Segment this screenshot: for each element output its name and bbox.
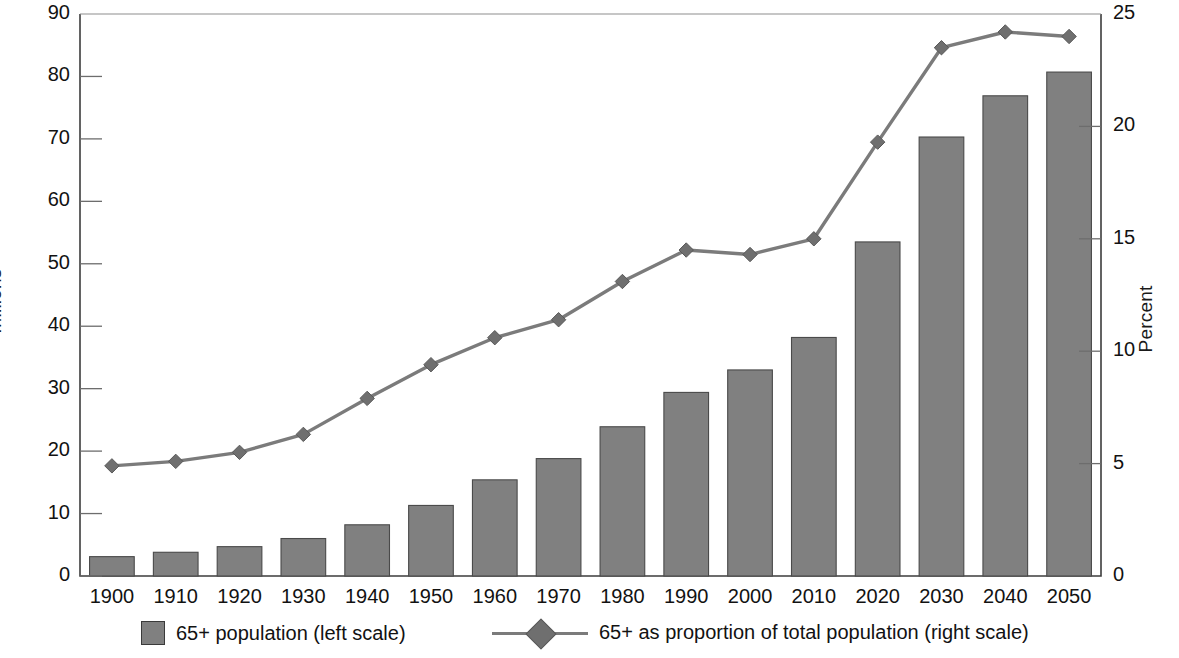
bar-1900	[90, 557, 135, 576]
bar-1980	[600, 427, 645, 576]
line-marker-2050	[1062, 29, 1076, 43]
legend-item-line: 65+ as proportion of total population (r…	[492, 621, 1029, 644]
line-marker-1900	[105, 459, 119, 473]
bar-2050	[1047, 72, 1092, 576]
line-marker-icon	[492, 623, 588, 643]
bar-1930	[281, 539, 326, 576]
chart-container: Millions Percent 0102030405060708090 051…	[0, 0, 1179, 658]
bar-1960	[472, 480, 517, 576]
line-marker-1940	[360, 391, 374, 405]
line-marker-2040	[998, 25, 1012, 39]
bar-1950	[409, 505, 454, 576]
bar-2040	[983, 96, 1028, 576]
bar-series	[90, 72, 1092, 576]
bar-2020	[855, 242, 900, 576]
line-marker-1910	[169, 454, 183, 468]
bar-2010	[792, 337, 837, 576]
bar-swatch-icon	[141, 621, 165, 645]
bar-1940	[345, 525, 390, 576]
line-marker-2000	[743, 247, 757, 261]
bar-2030	[919, 137, 964, 576]
line-marker-1920	[232, 445, 246, 459]
legend-label-bar: 65+ population (left scale)	[176, 622, 406, 645]
line-marker-1970	[551, 313, 565, 327]
plot-area	[0, 0, 1179, 658]
bar-1920	[217, 547, 262, 576]
legend-item-bar: 65+ population (left scale)	[141, 621, 406, 645]
line-marker-1950	[424, 357, 438, 371]
bar-1990	[664, 392, 709, 576]
chart-legend: 65+ population (left scale) 65+ as propo…	[0, 612, 1179, 658]
line-marker-1990	[679, 243, 693, 257]
bar-1970	[536, 459, 581, 576]
bar-2000	[728, 370, 773, 576]
line-marker-1980	[615, 274, 629, 288]
line-marker-1930	[296, 427, 310, 441]
legend-label-line: 65+ as proportion of total population (r…	[599, 621, 1029, 644]
diamond-marker-icon	[525, 618, 556, 649]
bar-1910	[153, 552, 198, 576]
line-marker-1960	[488, 331, 502, 345]
